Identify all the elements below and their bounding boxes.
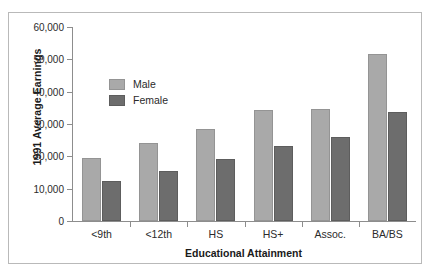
x-axis-tick-label: <12th bbox=[145, 228, 172, 240]
bar-group: HS bbox=[187, 27, 244, 221]
bar-babs-male bbox=[368, 54, 387, 221]
x-axis-tick bbox=[245, 221, 246, 227]
x-axis-tick bbox=[302, 221, 303, 227]
bar-hs-male bbox=[196, 129, 215, 221]
x-axis-tick bbox=[130, 221, 131, 227]
x-axis-tick-label: HS bbox=[209, 228, 224, 240]
bar-group: BA/BS bbox=[359, 27, 416, 221]
plot-area: 010,00020,00030,00040,00050,00060,000<9t… bbox=[72, 27, 416, 222]
bar-12th-male bbox=[139, 143, 158, 221]
y-axis-tick bbox=[67, 221, 73, 222]
bar-group: <12th bbox=[130, 27, 187, 221]
x-axis-tick-label: Assoc. bbox=[314, 228, 346, 240]
x-axis-tick-label: HS+ bbox=[263, 228, 284, 240]
x-axis-tick bbox=[359, 221, 360, 227]
bar-12th-female bbox=[159, 171, 178, 221]
legend-swatch-male bbox=[109, 79, 125, 90]
y-axis-tick-label: 20,000 bbox=[33, 151, 64, 162]
legend-label-male: Male bbox=[133, 78, 156, 90]
x-axis-tick-label: <9th bbox=[91, 228, 112, 240]
bar-group: HS+ bbox=[245, 27, 302, 221]
bar-hs-female bbox=[216, 159, 235, 221]
legend-label-female: Female bbox=[133, 94, 168, 106]
y-axis-tick-label: 10,000 bbox=[33, 183, 64, 194]
chart-figure: 1991 Average Earnings 010,00020,00030,00… bbox=[8, 12, 422, 264]
legend-item-female: Female bbox=[109, 92, 168, 108]
bar-hs-male bbox=[254, 110, 273, 221]
x-axis-title: Educational Attainment bbox=[72, 247, 415, 259]
bar-group: <9th bbox=[73, 27, 130, 221]
bar-assoc-male bbox=[311, 109, 330, 221]
bar-babs-female bbox=[388, 112, 407, 221]
x-axis-tick bbox=[187, 221, 188, 227]
chart-legend: Male Female bbox=[109, 76, 168, 108]
y-axis-tick-label: 40,000 bbox=[33, 86, 64, 97]
y-axis-tick-label: 50,000 bbox=[33, 54, 64, 65]
legend-item-male: Male bbox=[109, 76, 168, 92]
bar-9th-male bbox=[82, 158, 101, 221]
bar-9th-female bbox=[102, 181, 121, 221]
bar-hs-female bbox=[274, 146, 293, 221]
y-axis-tick-label: 0 bbox=[58, 216, 64, 227]
x-axis-tick-label: BA/BS bbox=[372, 228, 403, 240]
y-axis-tick-label: 60,000 bbox=[33, 22, 64, 33]
y-axis-tick-label: 30,000 bbox=[33, 119, 64, 130]
bar-group: Assoc. bbox=[302, 27, 359, 221]
bar-assoc-female bbox=[331, 137, 350, 221]
y-axis-title: 1991 Average Earnings bbox=[31, 27, 43, 187]
legend-swatch-female bbox=[109, 95, 125, 106]
